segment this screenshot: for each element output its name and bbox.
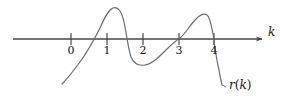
k-axis-label: k	[268, 26, 275, 39]
curve-label-leader	[222, 85, 226, 87]
function-plot-figure: 0 1 2 3 4 k r(k)	[0, 0, 281, 100]
tick-label-4: 4	[206, 45, 222, 57]
curve-label-close-paren: )	[247, 78, 252, 92]
tick-label-1: 1	[99, 45, 115, 57]
curve-label-variable: k	[239, 78, 246, 92]
tick-label-3: 3	[171, 45, 187, 57]
tick-label-2: 2	[135, 45, 151, 57]
tick-label-0: 0	[63, 45, 79, 57]
curve-label-r-of-k: r(k)	[229, 79, 251, 92]
